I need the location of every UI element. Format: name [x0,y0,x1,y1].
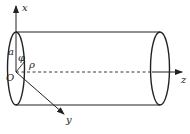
x-axis-label: x [22,2,28,13]
rho-label: ρ [28,59,35,70]
radius-label: a [8,46,14,57]
right-end-ellipse [151,32,170,105]
origin-label: O [6,72,14,83]
y-axis [16,72,64,114]
z-axis-label: z [180,74,187,85]
y-axis-label: y [65,114,72,125]
phi-label: φ [18,52,25,63]
cylinder-diagram: x z y O a φ ρ [0,0,190,134]
